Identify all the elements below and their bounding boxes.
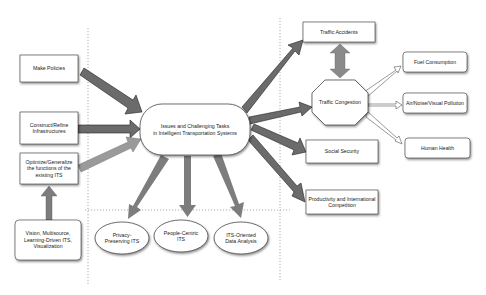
hollow-arrow-to-fuel (364, 66, 401, 97)
label-vision: Vision, Multisource, Learning-Driven ITS… (15, 220, 81, 260)
arrow-make-policies (80, 68, 142, 114)
label-traffic-congestion: Traffic Congestion (312, 80, 368, 125)
text-line: Data Analysis (225, 238, 256, 244)
label-productivity: Productivity and International Competiti… (306, 190, 378, 214)
label-its-oriented: ITS-Oriented Data Analysis (214, 222, 268, 254)
label-fuel-consumption: Fuel Consumption (403, 52, 467, 72)
label-privacy: Privacy- Preserving ITS (95, 222, 149, 254)
label-human-health: Human Health (405, 138, 470, 158)
double-arrow-accidents-congestion (330, 44, 350, 78)
label-people-centric: People-Centric ITS (154, 220, 208, 252)
arrow-vision-up (41, 186, 57, 220)
label-optimize-generalize: Optimize/Generalize the functions of the… (20, 153, 78, 184)
label-central: Issues and Challenging Tasks in Intellig… (140, 104, 250, 155)
label-traffic-accidents: Traffic Accidents (303, 22, 375, 42)
text-line: Competition (328, 202, 356, 208)
arrow-to-privacy (128, 155, 169, 219)
label-social-security: Social Security (306, 140, 378, 163)
label-make-policies: Make Policies (20, 55, 78, 82)
text-line: Traffic Accidents (320, 29, 358, 35)
arrow-to-traffic-congestion (249, 102, 312, 124)
hollow-arrow-to-pollution (368, 101, 402, 109)
text-line: in Intelligent Transportation Systems (153, 130, 237, 136)
text-line: ITS (177, 236, 185, 242)
text-line: Infrastructures (32, 128, 65, 134)
label-pollution: Air/Noise/Visual Pollution (403, 93, 467, 113)
text-line: Air/Noise/Visual Pollution (406, 100, 464, 106)
text-line: Fuel Consumption (414, 59, 456, 65)
text-make-policies: Make Policies (33, 65, 65, 71)
text-line: Visualization (33, 243, 62, 249)
text-line: Human Health (421, 145, 454, 151)
label-construct-refine: Construct/Refine Infrastructures (20, 112, 78, 144)
text-line: Preserving ITS (105, 238, 139, 244)
arrow-optimize (78, 137, 141, 172)
arrow-to-people-centric (179, 156, 196, 217)
arrow-to-its-oriented (213, 153, 244, 218)
arrow-to-traffic-accidents (242, 40, 303, 113)
text-line: Traffic Congestion (319, 99, 361, 105)
text-line: Social Security (325, 148, 359, 154)
text-line: existing ITS (35, 172, 62, 178)
arrow-construct (78, 120, 140, 138)
